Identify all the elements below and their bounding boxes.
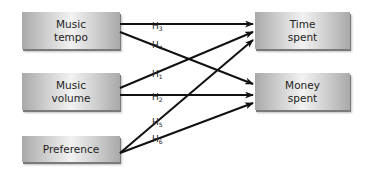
label-h4: H4 <box>152 40 163 51</box>
label-h3: H3 <box>152 21 163 32</box>
label-h2: H2 <box>152 92 163 103</box>
arrow-h6 <box>120 103 253 153</box>
arrows-layer: H3 H4 H1 H2 H5 H6 <box>0 0 372 175</box>
label-h6: H6 <box>152 134 163 145</box>
